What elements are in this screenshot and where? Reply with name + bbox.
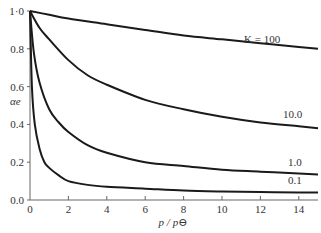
x-axis-label: p / p⊖ (158, 216, 188, 228)
y-tick-label: 1·0 (9, 5, 24, 17)
curve-label: 1.0 (288, 156, 302, 168)
y-tick-label: 0.0 (10, 194, 24, 206)
y-tick-label: 0.8 (10, 43, 24, 55)
x-tick-label: 10 (217, 203, 229, 215)
x-tick-label: 6 (142, 203, 148, 215)
curve-k-10.0 (30, 11, 318, 128)
x-tick-label: 4 (104, 203, 110, 215)
y-tick-label: 0.4 (10, 118, 24, 130)
curve-label: 10.0 (283, 108, 303, 120)
x-tick-label: 0 (27, 203, 33, 215)
curve-labels: K = 10010.01.00.1 (244, 33, 303, 186)
x-tick-label: 2 (66, 203, 72, 215)
x-tick-label: 8 (181, 203, 187, 215)
x-axis: 02468101214 (27, 196, 318, 215)
curve-label: 0.1 (288, 174, 302, 186)
x-tick-label: 14 (293, 203, 305, 215)
y-tick-label: 0.2 (10, 156, 24, 168)
x-tick-label: 12 (255, 203, 266, 215)
y-tick-label: 0.6 (10, 81, 24, 93)
y-axis-label: αe (10, 95, 21, 107)
curve-label: K = 100 (244, 33, 281, 45)
chart: 0.00.20.40.60.81·0 02468101214 K = 10010… (0, 0, 321, 233)
